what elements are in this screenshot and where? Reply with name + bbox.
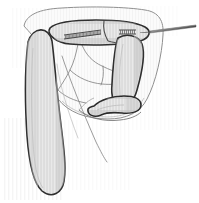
surgical-illustration-figure [0, 0, 199, 203]
illustration-canvas [0, 0, 199, 203]
